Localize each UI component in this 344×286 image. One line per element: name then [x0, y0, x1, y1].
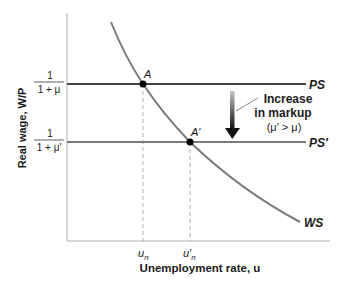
annotation-line3: (μ′ > μ)	[267, 121, 302, 133]
markup-increase-arrow	[225, 91, 240, 139]
point-a-prime-label: A′	[190, 126, 201, 138]
y-axis-label: Real wage, W/P	[16, 88, 28, 169]
y-tick-ps-prime: 1 1 + μ′	[34, 128, 64, 153]
wage-setting-price-setting-diagram: A A′ PS PS′ WS Increase in markup (μ′ > …	[0, 0, 344, 286]
point-a-marker	[140, 81, 147, 88]
point-a-label: A	[143, 68, 151, 80]
annotation-line2: in markup	[254, 106, 311, 120]
ps-label: PS	[309, 78, 325, 92]
annotation-line1: Increase	[264, 92, 313, 106]
ps-prime-label: PS′	[309, 136, 329, 150]
y-tick-ps-numerator: 1	[47, 70, 53, 81]
y-tick-ps-prime-numerator: 1	[47, 128, 53, 139]
y-tick-ps-prime-denominator: 1 + μ′	[37, 142, 62, 153]
x-axis-label: Unemployment rate, u	[140, 262, 261, 274]
ws-label: WS	[304, 216, 323, 230]
y-tick-ps: 1 1 + μ	[34, 70, 64, 95]
x-tick-un-prime: u′n	[183, 247, 196, 262]
x-tick-un: un	[138, 247, 149, 262]
point-a-prime-marker	[187, 139, 194, 146]
y-tick-ps-denominator: 1 + μ	[38, 84, 61, 95]
